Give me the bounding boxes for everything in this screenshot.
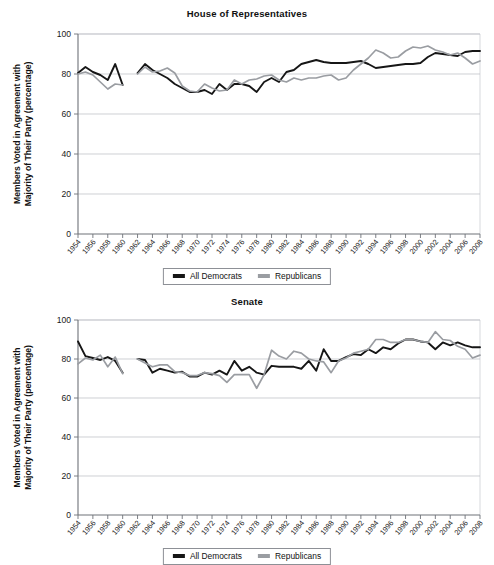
x-tick-label: 1980 [259,238,276,256]
x-tick-label: 1986 [303,519,320,537]
x-tick-label: 1978 [244,238,261,256]
x-tick-label: 1972 [199,519,216,537]
legend-entry-democrats: All Democrats [173,271,242,281]
legend-label-republicans: Republicans [275,271,321,281]
x-tick-label: 1984 [289,519,306,537]
y-tick-label: 60 [61,393,71,403]
legend-swatch-republicans [258,554,270,558]
house-legend: All Democrats Republicans [163,268,331,285]
x-tick-label: 2000 [408,238,425,256]
y-tick-label: 80 [61,69,71,79]
x-tick-label: 1966 [155,238,172,256]
y-tick-label: 100 [57,315,72,325]
y-tick-label: 80 [61,354,71,364]
legend-label-democrats: All Democrats [190,271,242,281]
x-axis-ticks: 1954195619581960196219641966196819701972… [65,234,484,256]
x-tick-label: 1982 [274,519,291,537]
y-axis-label-line2: Majority of Their Party (percentage) [23,345,33,490]
x-tick-label: 1998 [393,238,410,256]
x-tick-label: 1970 [184,238,201,256]
panel-house-plot-area: Members Voted in Agreement withMajority … [0,22,494,280]
x-tick-label: 1974 [214,519,231,537]
panel-senate-title: Senate [0,290,494,310]
x-tick-label: 1988 [318,238,335,256]
y-tick-label: 20 [61,471,71,481]
x-tick-label: 1986 [303,238,320,256]
y-axis-label-line1: Members Voted in Agreement with [12,348,22,488]
series-line-republicans [138,332,480,389]
x-tick-label: 1958 [95,519,112,537]
senate-legend: All Democrats Republicans [163,548,331,565]
x-tick-label: 1990 [333,519,350,537]
y-axis-label-line1: Members Voted in Agreement with [12,64,22,204]
panel-house-title: House of Representatives [0,0,494,22]
series-line-all-democrats [138,51,480,94]
x-tick-label: 1990 [333,238,350,256]
x-tick-label: 2006 [452,519,469,537]
y-tick-label: 60 [61,109,71,119]
panel-senate: Senate Members Voted in Agreement withMa… [0,290,494,555]
x-tick-label: 1968 [169,519,186,537]
x-tick-label: 1958 [95,238,112,256]
y-tick-label: 20 [61,189,71,199]
y-tick-label: 40 [61,432,71,442]
x-tick-label: 1964 [140,238,157,256]
x-tick-label: 1992 [348,519,365,537]
series-line-republicans [138,46,480,92]
legend-label-republicans: Republicans [275,551,321,561]
x-tick-label: 1962 [125,519,142,537]
x-tick-label: 1954 [65,238,82,256]
x-tick-label: 1996 [378,238,395,256]
y-gridlines: 020406080100 [57,29,480,239]
y-tick-label: 0 [66,510,71,520]
x-tick-label: 1978 [244,519,261,537]
x-tick-label: 1980 [259,519,276,537]
x-tick-label: 1956 [80,519,97,537]
legend-swatch-republicans [258,274,270,278]
x-tick-label: 1968 [169,238,186,256]
x-tick-label: 2002 [423,238,440,256]
panel-senate-plot-area: Members Voted in Agreement withMajority … [0,310,494,562]
x-tick-label: 1994 [363,519,380,537]
legend-swatch-democrats [173,554,185,558]
x-tick-label: 1994 [363,238,380,256]
senate-chart-svg: Members Voted in Agreement withMajority … [0,310,494,562]
y-tick-label: 40 [61,149,71,159]
x-tick-label: 1972 [199,238,216,256]
x-tick-label: 1960 [110,238,127,256]
y-axis-label: Members Voted in Agreement withMajority … [12,345,33,490]
x-tick-label: 2006 [452,238,469,256]
x-tick-label: 2004 [437,238,454,256]
x-tick-label: 1966 [155,519,172,537]
legend-swatch-democrats [173,274,185,278]
x-tick-label: 1974 [214,238,231,256]
x-tick-label: 1988 [318,519,335,537]
x-tick-label: 1976 [229,519,246,537]
x-tick-label: 2008 [467,519,484,537]
house-chart-svg: Members Voted in Agreement withMajority … [0,22,494,280]
legend-entry-democrats: All Democrats [173,551,242,561]
y-axis-label-line2: Majority of Their Party (percentage) [23,62,33,207]
y-axis-label: Members Voted in Agreement withMajority … [12,62,33,207]
legend-label-democrats: All Democrats [190,551,242,561]
panel-house: House of Representatives Members Voted i… [0,0,494,290]
x-tick-label: 1960 [110,519,127,537]
x-tick-label: 1956 [80,238,97,256]
x-tick-label: 1964 [140,519,157,537]
y-tick-label: 0 [66,229,71,239]
series-line-republicans [78,355,123,374]
x-tick-label: 1998 [393,519,410,537]
x-tick-label: 1954 [65,519,82,537]
x-tick-label: 2004 [437,519,454,537]
x-axis-ticks: 1954195619581960196219641966196819701972… [65,515,484,537]
x-tick-label: 1984 [289,238,306,256]
x-tick-label: 1962 [125,238,142,256]
x-tick-label: 1982 [274,238,291,256]
y-gridlines: 020406080100 [57,315,480,520]
x-tick-label: 1996 [378,519,395,537]
y-tick-label: 100 [57,29,72,39]
x-tick-label: 1992 [348,238,365,256]
legend-entry-republicans: Republicans [258,271,321,281]
x-tick-label: 1970 [184,519,201,537]
x-tick-label: 1976 [229,238,246,256]
